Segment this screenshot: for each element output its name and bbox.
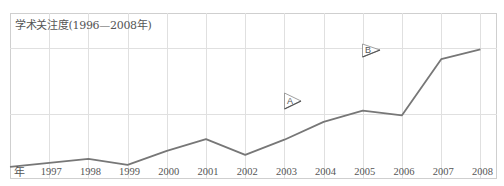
marker-b-label: B bbox=[365, 45, 371, 55]
x-tick-label: 2001 bbox=[198, 166, 219, 177]
x-tick-label: 2003 bbox=[276, 166, 297, 177]
horizontal-gridlines bbox=[10, 49, 497, 115]
x-tick-label: 2002 bbox=[237, 166, 258, 177]
x-axis-unit-label: 年 bbox=[14, 163, 25, 179]
x-tick-label: 2006 bbox=[394, 166, 415, 177]
plot-frame bbox=[11, 14, 497, 179]
x-tick-label: 2007 bbox=[433, 166, 454, 177]
x-tick-label: 1998 bbox=[80, 166, 101, 177]
chart-title: 学术关注度(1996—2008年) bbox=[15, 16, 151, 32]
x-tick-label: 1997 bbox=[41, 166, 62, 177]
x-tick-label: 2008 bbox=[472, 166, 493, 177]
marker-a-label: A bbox=[287, 96, 293, 106]
x-tick-label: 2000 bbox=[158, 166, 179, 177]
x-tick-label: 2005 bbox=[354, 166, 375, 177]
x-tick-label: 1999 bbox=[119, 166, 140, 177]
x-tick-label: 2004 bbox=[315, 166, 336, 177]
